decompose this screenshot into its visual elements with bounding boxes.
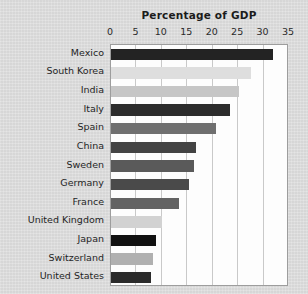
- bar-united-states[interactable]: [111, 272, 151, 283]
- bar-france[interactable]: [111, 198, 179, 209]
- x-axis: 05101520253035: [110, 26, 288, 42]
- y-tick-label: Sweden: [0, 159, 104, 170]
- y-tick-label: China: [0, 140, 104, 151]
- bar-row: [111, 213, 287, 232]
- y-tick-label: France: [0, 196, 104, 207]
- x-tick-label: 20: [206, 26, 218, 37]
- y-tick-label: India: [0, 84, 104, 95]
- bar-row: [111, 101, 287, 120]
- y-axis: MexicoSouth KoreaIndiaItalySpainChinaSwe…: [0, 44, 104, 286]
- bar-india[interactable]: [111, 86, 239, 97]
- y-tick-label: South Korea: [0, 65, 104, 76]
- bar-italy[interactable]: [111, 104, 230, 115]
- y-tick-label: Spain: [0, 121, 104, 132]
- bar-row: [111, 231, 287, 250]
- bar-row: [111, 45, 287, 64]
- y-tick-label: United States: [0, 270, 104, 281]
- y-tick-label: Switzerland: [0, 252, 104, 263]
- bar-united-kingdom[interactable]: [111, 216, 162, 227]
- bar-germany[interactable]: [111, 179, 189, 190]
- x-tick-label: 10: [155, 26, 167, 37]
- bars-group: [111, 45, 287, 285]
- bar-row: [111, 138, 287, 157]
- x-tick-label: 30: [257, 26, 269, 37]
- x-tick-label: 25: [231, 26, 243, 37]
- bar-south-korea[interactable]: [111, 67, 251, 78]
- bar-mexico[interactable]: [111, 49, 273, 60]
- bar-japan[interactable]: [111, 235, 156, 246]
- bar-row: [111, 268, 287, 286]
- x-tick-label: 0: [107, 26, 113, 37]
- bar-spain[interactable]: [111, 123, 216, 134]
- y-tick-label: Italy: [0, 103, 104, 114]
- x-tick-label: 35: [282, 26, 294, 37]
- bar-row: [111, 175, 287, 194]
- y-tick-label: United Kingdom: [0, 214, 104, 225]
- bar-row: [111, 250, 287, 269]
- bar-sweden[interactable]: [111, 160, 194, 171]
- y-tick-label: Japan: [0, 233, 104, 244]
- y-tick-label: Mexico: [0, 47, 104, 58]
- plot-area: [110, 44, 288, 286]
- bar-row: [111, 157, 287, 176]
- bar-row: [111, 119, 287, 138]
- x-tick-label: 15: [180, 26, 192, 37]
- x-tick-label: 5: [132, 26, 138, 37]
- bar-china[interactable]: [111, 142, 196, 153]
- bar-row: [111, 194, 287, 213]
- chart-title: Percentage of GDP: [110, 9, 288, 21]
- bar-switzerland[interactable]: [111, 253, 153, 264]
- y-tick-label: Germany: [0, 177, 104, 188]
- bar-row: [111, 82, 287, 101]
- bar-row: [111, 64, 287, 83]
- chart-figure: Percentage of GDP 05101520253035 MexicoS…: [0, 0, 308, 294]
